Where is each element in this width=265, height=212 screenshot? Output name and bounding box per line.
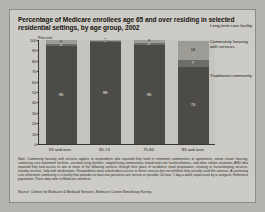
bar-segment: 7: [178, 60, 209, 67]
x-axis-label: 85 and over: [177, 147, 208, 152]
bar-segment: 98: [90, 42, 121, 144]
bar-value-label: 7: [192, 61, 194, 65]
legend-item-long-term-care: Long-term care facility: [210, 23, 254, 28]
y-tick-label: 70: [32, 69, 39, 74]
y-tick-label: 50: [32, 90, 39, 95]
bar-column: 4295: [46, 40, 77, 144]
figure-panel: Percentage of Medicare enrollees age 65 …: [9, 9, 256, 203]
y-tick-label: 20: [32, 121, 39, 126]
y-tick-label: 80: [32, 58, 39, 63]
figure-page: Percentage of Medicare enrollees age 65 …: [0, 0, 265, 212]
bar-group: 42951198329518774: [39, 40, 215, 144]
y-tick-label: 40: [32, 100, 39, 105]
x-axis-label: 65 and over: [45, 147, 76, 152]
chart-area: Percent 100 90 80 70 60 50 40 30 20 10 0…: [18, 35, 250, 155]
plot-region: 100 90 80 70 60 50 40 30 20 10 0 4295119…: [38, 40, 215, 145]
y-tick-label: 10: [32, 131, 39, 136]
bar-segment: 95: [46, 46, 77, 144]
bar-value-label: 98: [103, 91, 108, 95]
y-tick-label: 60: [32, 79, 39, 84]
y-tick-label: 30: [32, 110, 39, 115]
figure-note: Note: Community housing with services ap…: [18, 158, 248, 181]
bar-segment: 18: [178, 41, 209, 60]
figure-source: Source: Centers for Medicare & Medicaid …: [18, 190, 248, 194]
x-axis-labels: 65 and over65-7475-8485 and over: [38, 147, 215, 152]
x-axis-label: 65-74: [89, 147, 120, 152]
bar-column: 1198: [90, 40, 121, 144]
bar-column: 18774: [178, 40, 209, 144]
legend-item-community-housing: Community housing with services: [210, 39, 254, 49]
y-tick-label: 90: [32, 48, 39, 53]
legend-item-traditional-community: Traditional community: [210, 73, 254, 78]
bar-value-label: 95: [147, 93, 152, 97]
bar-column: 3295: [134, 40, 165, 144]
bar-value-label: 18: [191, 48, 196, 52]
y-tick-label: 100: [30, 38, 39, 43]
bar-value-label: 74: [191, 103, 196, 107]
x-axis-label: 75-84: [133, 147, 164, 152]
bar-segment: 74: [178, 67, 209, 144]
bar-value-label: 95: [59, 93, 64, 97]
bar-segment: 95: [134, 45, 165, 144]
